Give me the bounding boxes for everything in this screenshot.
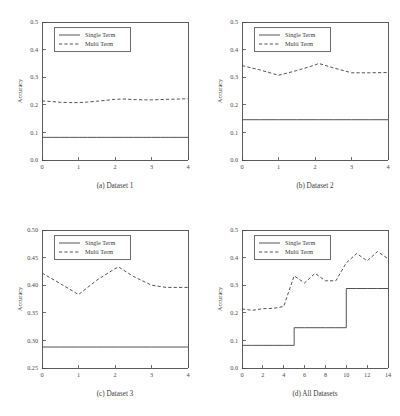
chart-panel-b: 0.00.10.20.30.40.501234Accuracy(b) Datas… bbox=[200, 0, 400, 208]
legend-label-single-term-d: Single Term bbox=[285, 239, 315, 246]
x-tick-label-d: 4 bbox=[282, 371, 285, 378]
y-tick-label-a: 0.1 bbox=[30, 129, 38, 136]
y-axis-title-d: Accuracy bbox=[216, 286, 223, 311]
y-tick-label-d: 0.5 bbox=[230, 226, 238, 233]
x-tick-label-d: 6 bbox=[303, 371, 306, 378]
x-tick-label-b: 0 bbox=[240, 163, 243, 170]
series-multi-term-b bbox=[242, 63, 388, 75]
y-tick-label-c: 0.50 bbox=[27, 226, 38, 233]
y-tick-label-d: 0.0 bbox=[230, 364, 238, 371]
y-tick-label-b: 0.5 bbox=[230, 18, 238, 25]
y-tick-label-c: 0.40 bbox=[27, 281, 38, 288]
legend-label-multi-term-a: Multi Term bbox=[85, 40, 113, 47]
x-tick-label-d: 14 bbox=[385, 371, 391, 378]
x-tick-label-a: 0 bbox=[40, 163, 43, 170]
legend-label-multi-term-c: Multi Term bbox=[85, 248, 113, 255]
legend-label-multi-term-d: Multi Term bbox=[285, 248, 313, 255]
y-tick-label-b: 0.2 bbox=[230, 101, 238, 108]
panel-caption-b: (b) Dataset 2 bbox=[296, 182, 334, 190]
y-tick-label-a: 0.4 bbox=[30, 46, 38, 53]
y-tick-label-c: 0.45 bbox=[27, 254, 38, 261]
y-tick-label-c: 0.30 bbox=[27, 337, 38, 344]
x-tick-label-b: 4 bbox=[386, 163, 389, 170]
chart-panel-c: 0.250.300.350.400.450.5001234Accuracy(c)… bbox=[0, 208, 200, 416]
x-tick-label-c: 1 bbox=[77, 371, 80, 378]
x-tick-label-a: 4 bbox=[186, 163, 189, 170]
y-tick-label-d: 0.4 bbox=[230, 254, 238, 261]
x-tick-label-c: 4 bbox=[186, 371, 189, 378]
y-tick-label-c: 0.35 bbox=[27, 309, 38, 316]
panel-caption-c: (c) Dataset 3 bbox=[97, 390, 134, 398]
x-tick-label-d: 0 bbox=[240, 371, 243, 378]
x-tick-label-a: 3 bbox=[150, 163, 153, 170]
y-tick-label-a: 0.3 bbox=[30, 73, 38, 80]
y-tick-label-b: 0.1 bbox=[230, 129, 238, 136]
y-tick-label-c: 0.25 bbox=[27, 364, 38, 371]
x-tick-label-d: 10 bbox=[343, 371, 349, 378]
x-tick-label-b: 3 bbox=[350, 163, 353, 170]
y-axis-title-a: Accuracy bbox=[16, 78, 23, 103]
x-tick-label-b: 1 bbox=[277, 163, 280, 170]
y-tick-label-b: 0.0 bbox=[230, 156, 238, 163]
x-tick-label-d: 12 bbox=[364, 371, 370, 378]
series-single-term-d bbox=[242, 289, 388, 346]
y-tick-label-d: 0.1 bbox=[230, 337, 238, 344]
x-tick-label-a: 1 bbox=[77, 163, 80, 170]
series-multi-term-d bbox=[242, 252, 388, 311]
x-tick-label-a: 2 bbox=[113, 163, 116, 170]
legend-label-multi-term-b: Multi Term bbox=[285, 40, 313, 47]
y-tick-label-d: 0.2 bbox=[230, 309, 238, 316]
y-tick-label-d: 0.3 bbox=[230, 281, 238, 288]
accuracy-comparison-figure: 0.00.10.20.30.40.501234Accuracy(a) Datas… bbox=[0, 0, 400, 416]
y-axis-title-c: Accuracy bbox=[16, 286, 23, 311]
x-tick-label-c: 0 bbox=[40, 371, 43, 378]
y-tick-label-b: 0.3 bbox=[230, 73, 238, 80]
series-multi-term-a bbox=[42, 99, 188, 103]
series-multi-term-c bbox=[42, 267, 188, 295]
x-tick-label-c: 3 bbox=[150, 371, 153, 378]
panel-caption-d: (d) All Datasets bbox=[292, 390, 337, 398]
x-tick-label-c: 2 bbox=[113, 371, 116, 378]
x-tick-label-b: 2 bbox=[313, 163, 316, 170]
chart-panel-d: 0.00.10.20.30.40.502468101214Accuracy(d)… bbox=[200, 208, 400, 416]
legend-label-single-term-a: Single Term bbox=[85, 31, 115, 38]
x-tick-label-d: 8 bbox=[324, 371, 327, 378]
y-tick-label-a: 0.2 bbox=[30, 101, 38, 108]
x-tick-label-d: 2 bbox=[261, 371, 264, 378]
y-tick-label-b: 0.4 bbox=[230, 46, 238, 53]
y-tick-label-a: 0.0 bbox=[30, 156, 38, 163]
chart-panel-a: 0.00.10.20.30.40.501234Accuracy(a) Datas… bbox=[0, 0, 200, 208]
panel-caption-a: (a) Dataset 1 bbox=[97, 182, 134, 190]
y-tick-label-a: 0.5 bbox=[30, 18, 38, 25]
legend-label-single-term-c: Single Term bbox=[85, 239, 115, 246]
y-axis-title-b: Accuracy bbox=[216, 78, 223, 103]
legend-label-single-term-b: Single Term bbox=[285, 31, 315, 38]
